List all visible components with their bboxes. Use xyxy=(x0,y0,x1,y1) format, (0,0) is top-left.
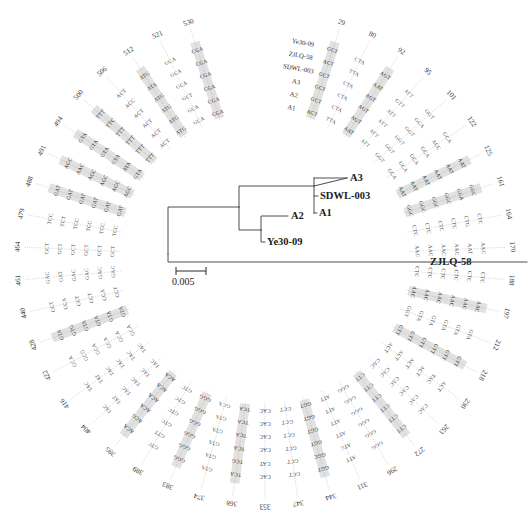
tree-branch-zjlq58 xyxy=(168,254,527,262)
tree-leaf-a2: A2 xyxy=(291,210,304,221)
circular-codon-alignment-figure: ACTGCTGCTGCTACTGCTTTACTACTACTATTACTAAATA… xyxy=(0,0,530,513)
tree-branch-root-upper xyxy=(168,207,239,254)
tree-branch-a2 xyxy=(261,216,288,230)
tree-leaf-ye30-09: Ye30-09 xyxy=(267,236,303,247)
tree-leaf-a1: A1 xyxy=(319,207,332,218)
tree-branch-clade-a xyxy=(239,186,314,207)
tree-branch-clade-b xyxy=(239,207,261,230)
phylogenetic-tree: A3 SDWL-003 A1 A2 Ye30-09 ZJLQ-58 0.005 xyxy=(0,0,530,513)
tree-branch-ye3009 xyxy=(261,230,265,242)
tree-leaf-a3: A3 xyxy=(350,172,363,183)
scale-bar: 0.005 xyxy=(172,267,206,287)
tree-branch-a3 xyxy=(314,178,347,186)
tree-leaf-sdwl-003: SDWL-003 xyxy=(320,190,370,201)
scale-bar-label: 0.005 xyxy=(172,276,195,287)
tree-leaf-zjlq-58: ZJLQ-58 xyxy=(430,256,471,267)
